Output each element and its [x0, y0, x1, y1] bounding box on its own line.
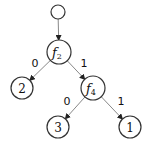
node-circle	[51, 5, 65, 19]
node-label: 1	[126, 121, 134, 135]
edge-label: 1	[118, 95, 125, 108]
edge-label: 1	[81, 57, 88, 70]
node-label: 2	[18, 82, 26, 96]
edge-label: 0	[32, 57, 39, 70]
edge-root-f2	[58, 19, 59, 40]
node-leaf2: 2	[11, 77, 33, 99]
node-leaf3: 3	[47, 116, 69, 138]
node-label: 3	[54, 121, 62, 135]
node-leaf1: 1	[119, 116, 141, 138]
node-subscript: 4	[91, 88, 96, 97]
node-root	[51, 5, 65, 19]
node-subscript: 2	[57, 52, 62, 61]
decision-tree-diagram: 0101 f22f431	[0, 0, 153, 155]
node-f4: f4	[81, 76, 105, 100]
edges-group: 0101	[30, 19, 125, 119]
node-f2: f2	[47, 40, 71, 64]
edge-label: 0	[64, 95, 71, 108]
